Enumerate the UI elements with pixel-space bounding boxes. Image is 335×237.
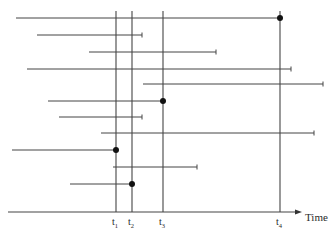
endpoint-dot-icon [160, 98, 166, 104]
interval-timeline-diagram: Time t1t2t3t4 [0, 0, 335, 237]
time-marker-label-t2: t2 [128, 216, 134, 229]
interval [16, 15, 283, 21]
interval [59, 115, 142, 120]
interval [48, 98, 166, 104]
interval-lines [12, 15, 323, 187]
interval [12, 147, 119, 153]
time-marker-label-t4: t4 [276, 216, 283, 229]
time-marker-labels: t1t2t3t4 [112, 216, 283, 229]
endpoint-dot-icon [277, 15, 283, 21]
endpoint-dot-icon [113, 147, 119, 153]
time-marker-lines [116, 11, 280, 212]
arrow-right-icon [295, 210, 302, 215]
time-marker-label-t1: t1 [112, 216, 118, 229]
time-axis-label: Time [305, 211, 328, 223]
interval [101, 131, 314, 136]
interval [143, 82, 323, 87]
interval [27, 67, 291, 72]
interval [113, 165, 197, 170]
interval [89, 50, 216, 55]
endpoint-dot-icon [129, 181, 135, 187]
time-axis: Time [8, 210, 328, 224]
time-marker-label-t3: t3 [159, 216, 165, 229]
interval [70, 181, 135, 187]
interval [37, 33, 142, 38]
